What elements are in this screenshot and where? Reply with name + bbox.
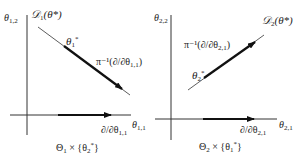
left-distribution-label: 𝒟1(θ*) (31, 9, 62, 22)
right-caption: Θ2 × {θ1*} (199, 141, 242, 154)
left-vertical-axis-label: θ1,2 (4, 13, 18, 25)
right-diagonal-vector-label: π⁻¹(∂/∂θ2,1) (184, 40, 230, 52)
right-panel-graphics (155, 15, 277, 140)
right-point-label: θ2* (192, 70, 204, 83)
left-horizontal-axis-label: θ1,1 (132, 120, 146, 132)
left-diagonal-vector-label: π⁻¹(∂/∂θ1,1) (96, 57, 142, 69)
diagram-canvas: θ1,2 𝒟1(θ*) θ1* π⁻¹(∂/∂θ1,1) θ1,1 ∂/∂θ1,… (0, 0, 303, 166)
left-point-label: θ1* (66, 36, 78, 49)
right-horizontal-axis-label: θ2,1 (279, 120, 293, 132)
right-distribution-label: 𝒟2(θ*) (262, 15, 293, 28)
right-horizontal-vector-label: ∂/∂θ2,1 (240, 125, 266, 137)
left-panel-graphics (10, 15, 131, 135)
diagram-lines (0, 0, 303, 166)
left-horizontal-vector-label: ∂/∂θ1,1 (101, 125, 127, 137)
right-vertical-axis-label: θ2,2 (154, 13, 168, 25)
left-caption: Θ1 × {θ2*} (56, 142, 99, 155)
